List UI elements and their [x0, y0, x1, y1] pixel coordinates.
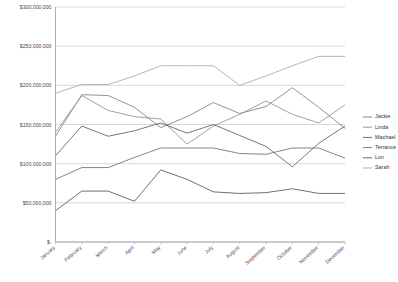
x-axis-month-label: April	[123, 244, 135, 255]
y-axis-tick-label: $50,000,000	[23, 200, 52, 206]
legend-item-lon[interactable]: Lon	[363, 154, 384, 160]
x-axis-month-label: January	[38, 244, 56, 261]
legend-item-machael[interactable]: Machael	[363, 134, 395, 140]
series-line-lon	[56, 170, 346, 211]
gridlines-group	[56, 7, 346, 242]
y-axis-tick-label: $250,000,000	[20, 43, 52, 49]
legend-item-jackie[interactable]: Jackie	[363, 113, 390, 119]
x-axis-month-label: February	[63, 244, 83, 263]
x-axis-month-label: June	[175, 244, 187, 256]
legend-label: Terrance	[375, 144, 396, 150]
x-axis-month-label: May	[150, 244, 162, 255]
x-axis-month-label: December	[324, 244, 346, 265]
legend-label: Lon	[375, 154, 384, 160]
legend-label: Sarah	[375, 164, 389, 170]
series-line-machael	[56, 123, 346, 167]
y-axis-tick-label: $300,000,000	[20, 4, 52, 10]
line-chart: $-$50,000,000$100,000,000$150,000,000$20…	[0, 0, 398, 282]
y-axis-labels-group: $-$50,000,000$100,000,000$150,000,000$20…	[20, 4, 52, 245]
legend-label: Machael	[375, 134, 395, 140]
line-chart-container: $-$50,000,000$100,000,000$150,000,000$20…	[0, 0, 398, 282]
series-line-linda	[56, 96, 346, 145]
legend-item-sarah[interactable]: Sarah	[363, 164, 389, 170]
data-series-group	[56, 56, 346, 210]
x-axis-month-label: March	[94, 244, 109, 258]
y-axis-tick-label: $100,000,000	[20, 161, 52, 167]
y-axis-tick-label: $200,000,000	[20, 82, 52, 88]
x-axis-month-label: November	[298, 244, 320, 265]
legend-item-linda[interactable]: Linda	[363, 124, 388, 130]
legend-label: Jackie	[375, 113, 390, 119]
x-axis-month-label: October	[275, 244, 293, 261]
x-axis-month-label: September	[244, 244, 267, 266]
chart-legend: JackieLindaMachaelTerranceLonSarah	[363, 113, 396, 170]
legend-item-terrance[interactable]: Terrance	[363, 144, 396, 150]
legend-label: Linda	[375, 124, 388, 130]
x-axis-month-label: August	[224, 244, 240, 260]
y-axis-tick-label: $150,000,000	[20, 122, 52, 128]
x-axis-labels-group: JanuaryFebruaryMarchAprilMayJuneJulyAugu…	[38, 244, 345, 266]
x-axis-month-label: July	[203, 244, 214, 255]
series-line-sarah	[56, 56, 346, 93]
